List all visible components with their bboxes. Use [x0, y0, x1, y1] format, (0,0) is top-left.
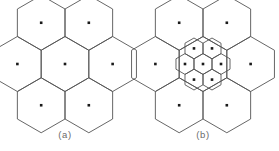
panel-a-large-cluster — [0, 0, 136, 133]
panel-b-cell-bottom-center-dot-icon — [226, 104, 229, 107]
panel-a-cell-upper-right-center-dot-icon — [88, 21, 91, 24]
figure-root: (a) (b) — [0, 0, 279, 151]
panel-a-cell-upper-left — [0, 37, 41, 92]
hexagon-cluster-canvas — [0, 0, 279, 151]
panel-a-cell-lower-right-center-dot-icon — [111, 63, 114, 66]
panel-b-large-cluster — [132, 0, 275, 133]
hexagon-layer — [0, 0, 274, 133]
panel-a-cell-center-center-dot-icon — [64, 63, 67, 66]
panel-b-inner-small-cell-cluster — [176, 38, 230, 90]
panel-b-cell-lower-right-center-dot-icon — [249, 63, 252, 66]
panel-b-cell-lower-left-center-dot-icon — [178, 104, 181, 107]
panel-a-cell-top-center-dot-icon — [40, 21, 43, 24]
panel-b-cell-upper-right — [203, 0, 251, 50]
panel-b — [132, 0, 275, 133]
panel-b-small-cell-bottom-center-dot-icon — [211, 78, 214, 81]
panel-b-cell-upper-right-center-dot-icon — [226, 21, 229, 24]
panel-a-cell-upper-left-center-dot-icon — [16, 63, 19, 66]
panel-a-cell-bottom-center-dot-icon — [88, 104, 91, 107]
panel-b-small-cell-top-center-dot-icon — [193, 47, 196, 50]
panel-a — [0, 0, 136, 133]
panel-a-caption: (a) — [58, 129, 71, 140]
panel-a-cell-upper-right — [65, 0, 113, 50]
panel-b-small-cell-upper-left-center-dot-icon — [184, 63, 187, 66]
panel-b-caption: (b) — [196, 129, 209, 140]
panel-a-cell-top — [17, 0, 65, 50]
panel-b-small-cell-center-center-dot-icon — [202, 63, 205, 66]
panel-b-small-cell-upper-right-center-dot-icon — [211, 47, 214, 50]
panel-b-cell-upper-left-center-dot-icon — [154, 63, 157, 66]
panel-b-small-cell-lower-left-center-dot-icon — [193, 78, 196, 81]
panel-a-cell-lower-left-center-dot-icon — [40, 104, 43, 107]
panel-b-small-cell-lower-right-center-dot-icon — [220, 63, 223, 66]
panel-b-cell-top — [155, 0, 203, 50]
panel-b-cell-top-center-dot-icon — [178, 21, 181, 24]
